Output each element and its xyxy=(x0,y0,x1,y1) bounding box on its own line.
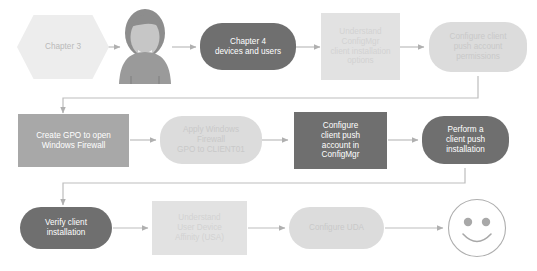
node-understand-user-device-affinity[interactable]: Understand User Device Affinity (USA) xyxy=(152,201,247,255)
node-chapter-3-label: Chapter 3 xyxy=(45,42,81,52)
node-perform-client-push[interactable]: Perform a client push installation xyxy=(422,116,509,164)
node-configure-client-push-account[interactable]: Configure client push account in ConfigM… xyxy=(294,112,387,169)
connector-wrap-row2-to-row3 xyxy=(63,168,465,205)
flowchart-canvas: Chapter 3 Chapter 4 devices and users Un… xyxy=(0,0,537,271)
node-configure-uda[interactable]: Configure UDA xyxy=(289,207,384,249)
node-verify-client-installation[interactable]: Verify client installation xyxy=(20,207,112,249)
node-apply-gpo-client01[interactable]: Apply Windows Firewall GPO to CLIENT01 xyxy=(160,116,262,164)
person-avatar-icon xyxy=(114,6,176,88)
node-chapter-4[interactable]: Chapter 4 devices and users xyxy=(200,23,296,70)
node-create-gpo[interactable]: Create GPO to open Windows Firewall xyxy=(18,114,129,167)
node-configure-push-permissions[interactable]: Configure client push account permission… xyxy=(429,22,527,72)
node-understand-configmgr[interactable]: Understand ConfigMgr client installation… xyxy=(321,13,400,80)
node-chapter-3[interactable]: Chapter 3 xyxy=(17,15,109,79)
smiley-face-icon xyxy=(447,198,507,258)
